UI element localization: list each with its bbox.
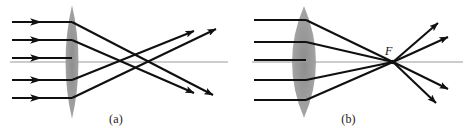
- converging-ray: [306, 42, 393, 62]
- panel-b-caption: (b): [232, 112, 465, 127]
- panel-a-diagram: [0, 0, 232, 130]
- focal-point-marker: [391, 60, 395, 64]
- focal-point-label: F: [384, 44, 393, 58]
- outgoing-ray-group: [72, 22, 216, 98]
- outgoing-ray: [72, 31, 194, 80]
- panel-a-caption: (a): [0, 112, 232, 127]
- converging-ray: [306, 62, 393, 80]
- incoming-ray-arrowhead-group: [30, 18, 42, 102]
- lens-ray-figure: (a): [0, 0, 465, 130]
- diverging-ray: [393, 23, 438, 62]
- converging-ray: [306, 62, 393, 100]
- diverging-ray: [393, 37, 448, 62]
- panel-b-ideal-focus: F (b): [232, 0, 465, 130]
- panel-b-diagram: F: [232, 0, 465, 130]
- diverging-ray: [393, 62, 448, 89]
- outgoing-ray: [72, 29, 216, 98]
- panel-a-spherical-aberration: (a): [0, 0, 232, 130]
- converging-ray-group: [306, 20, 393, 100]
- converging-ray: [306, 20, 393, 62]
- diverging-ray-group: [393, 23, 448, 103]
- diverging-ray: [393, 62, 436, 103]
- incoming-ray-group: [12, 22, 72, 98]
